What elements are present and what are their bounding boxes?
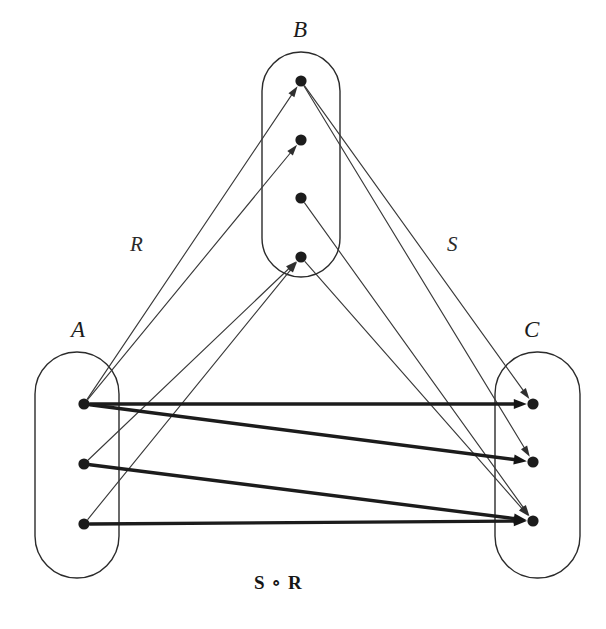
edge-a1-to-c2-line bbox=[90, 405, 516, 460]
element-dot-b1 bbox=[295, 75, 306, 86]
element-dot-b2 bbox=[295, 134, 306, 145]
relation-label-r: R bbox=[130, 234, 143, 255]
element-dot-c1 bbox=[527, 398, 538, 409]
diagram-canvas bbox=[0, 0, 606, 629]
element-dot-a1 bbox=[78, 398, 89, 409]
edge-a1-to-b1-line bbox=[87, 94, 292, 399]
element-dot-b4 bbox=[295, 251, 306, 262]
relation-composition-diagram: A B C R S S ∘ R bbox=[0, 0, 606, 629]
composition-caption: S ∘ R bbox=[254, 573, 303, 592]
element-dot-c2 bbox=[527, 456, 538, 467]
element-dot-a2 bbox=[78, 458, 89, 469]
edge-a1-to-b1-arrowhead bbox=[288, 86, 297, 97]
edge-a1-to-c2-arrowhead bbox=[513, 455, 527, 465]
set-label-b: B bbox=[293, 18, 307, 41]
set-label-a: A bbox=[71, 318, 85, 341]
edge-a2-to-b4-line bbox=[88, 267, 290, 459]
edge-b4-to-c3-line bbox=[305, 262, 523, 510]
edge-b1-to-c1-line bbox=[305, 86, 525, 392]
set-capsule-a bbox=[35, 352, 119, 578]
edge-b1-to-c2-line bbox=[304, 86, 525, 449]
relation-label-s: S bbox=[447, 234, 458, 255]
edge-a3-to-c3-line bbox=[90, 521, 516, 524]
element-dot-a3 bbox=[78, 518, 89, 529]
set-boundaries-group bbox=[35, 52, 580, 578]
element-dot-c3 bbox=[527, 515, 538, 526]
element-dot-b3 bbox=[295, 192, 306, 203]
edge-a2-to-c3-line bbox=[90, 465, 516, 519]
element-dots-group bbox=[78, 75, 538, 529]
relation-edges-group bbox=[87, 86, 529, 526]
edge-b1-to-c1-arrowhead bbox=[520, 388, 529, 399]
edge-a1-to-b2-arrowhead bbox=[287, 145, 297, 156]
edge-b3-to-c3-line bbox=[305, 203, 525, 509]
edge-a1-to-b2-line bbox=[88, 152, 291, 400]
edge-b1-to-c2-arrowhead bbox=[521, 445, 530, 456]
edge-a1-to-c1-arrowhead bbox=[514, 399, 527, 409]
set-label-c: C bbox=[524, 318, 539, 341]
